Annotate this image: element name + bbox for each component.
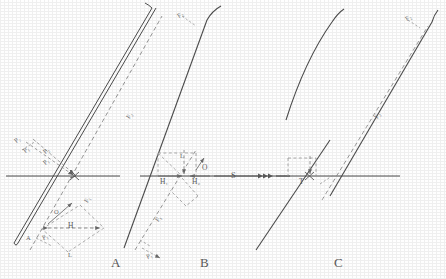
panel-b-top-vector — [182, 16, 196, 26]
panel-b-ray-dashed — [135, 150, 196, 250]
panel-b-label-s: S — [231, 170, 236, 180]
panel-b-ray-tip-curve — [207, 6, 221, 20]
panel-b-vector-lower-tick — [140, 240, 150, 246]
panel-a-graphics — [6, 3, 162, 252]
panel-b-graphics — [124, 6, 290, 258]
panel-b-s-arrowheads — [258, 174, 273, 179]
panel-a-ray-dashed — [30, 16, 162, 250]
panel-c-top-vector — [408, 20, 420, 28]
panel-b-label-h1: H₁ — [160, 177, 168, 186]
panel-a-intersection-mark — [70, 170, 79, 180]
panel-c-label-t: T — [299, 177, 304, 186]
panel-b-label-l: L — [180, 152, 184, 159]
panel-a-ray-solid-outer — [14, 8, 152, 243]
panel-c-ray-right-tip — [432, 10, 438, 22]
panel-b-letter: B — [200, 255, 209, 271]
panel-c-graphics — [256, 9, 438, 250]
panel-c-ray-solid-lower — [256, 140, 330, 250]
panel-a-ray-foot — [14, 243, 18, 245]
panel-c-tick-dashed — [320, 176, 332, 184]
panel-a-ray-tip-curve — [145, 3, 152, 8]
figure-vector-layer — [0, 0, 446, 279]
panel-b-construction-box — [158, 153, 196, 176]
figure-canvas: P₂ P₁ P₂ P₁ F₂ F₁ O H P₁ L A A F₂ H₁ H₂ … — [0, 0, 446, 279]
panel-b-label-h2: H₂ — [192, 177, 200, 186]
panel-c-ray-solid-right — [330, 22, 432, 196]
panel-b-label-o: O — [202, 163, 207, 172]
panel-a-label-a-corner: A — [26, 234, 31, 241]
panel-a-ray-solid-inner — [18, 8, 156, 243]
panel-a-vector-p2-upper — [26, 142, 73, 175]
panel-a-letter: A — [111, 255, 121, 271]
panel-a-vector-p1-upper — [33, 139, 74, 174]
panel-b-ray-solid — [124, 20, 207, 248]
panel-a-label-o: O — [54, 208, 59, 215]
panel-c-ray-curve-upper — [286, 9, 344, 120]
panel-a-label-l: L — [68, 251, 72, 258]
panel-a-label-h: H — [68, 221, 73, 230]
panel-c-letter: C — [334, 255, 343, 271]
